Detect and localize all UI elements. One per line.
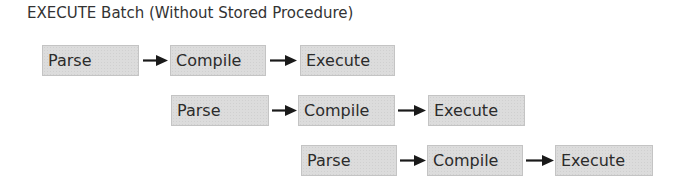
step-compile: Compile bbox=[427, 145, 523, 176]
arrow-right-icon bbox=[398, 145, 427, 176]
step-compile: Compile bbox=[298, 95, 395, 126]
step-execute: Execute bbox=[428, 95, 525, 126]
diagram-title: EXECUTE Batch (Without Stored Procedure) bbox=[27, 4, 353, 22]
arrow-right-icon bbox=[270, 95, 298, 126]
step-compile: Compile bbox=[170, 45, 266, 76]
arrow-right-icon bbox=[396, 95, 427, 126]
step-execute: Execute bbox=[300, 45, 395, 76]
step-parse: Parse bbox=[42, 45, 139, 76]
arrow-right-icon bbox=[141, 45, 169, 76]
arrow-right-icon bbox=[524, 145, 555, 176]
arrow-right-icon bbox=[268, 45, 298, 76]
step-execute: Execute bbox=[555, 145, 653, 176]
step-parse: Parse bbox=[171, 95, 269, 126]
step-parse: Parse bbox=[301, 145, 397, 176]
